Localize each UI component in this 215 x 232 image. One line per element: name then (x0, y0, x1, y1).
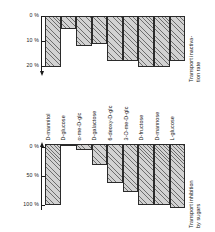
top-chart-y-axis: 0 %10 %20 % (41, 16, 42, 71)
top-chart-bar (123, 16, 139, 61)
category-label-column: 6-deoxy-D-glc (107, 86, 123, 140)
category-label-column: α-me-D-glc (76, 86, 92, 140)
category-label-column: L-glucose (170, 86, 186, 140)
top-chart-bar-column (61, 16, 77, 71)
category-label: D-mannose (154, 111, 159, 140)
figure-panel-pair: 0 %10 %20 % Transport inactiva- tion rat… (0, 0, 215, 232)
category-label-column: D-fructose (138, 86, 154, 140)
bottom-chart-plot-area (45, 144, 185, 210)
category-label: L-glucose (170, 116, 175, 140)
bottom-chart-axis-title: Transport inhibition by sugars (188, 148, 201, 228)
top-axis-arrow-icon (40, 71, 44, 76)
bottom-chart-bar (123, 144, 139, 192)
top-chart-bar-column (45, 16, 61, 71)
top-chart-bar (76, 16, 92, 46)
category-label: α-me-D-glc (76, 112, 81, 140)
bottom-chart-bar-column (107, 144, 123, 210)
bottom-chart-bar (92, 144, 108, 165)
top-chart-bar (61, 16, 77, 29)
category-label-column: D-mannose (154, 86, 170, 140)
top-chart-bar-column (138, 16, 154, 71)
category-label: D-galactose (92, 110, 97, 140)
top-chart-y-tick-label: 10 % (26, 38, 39, 43)
bottom-chart-bar (107, 144, 123, 183)
top-chart-axis-title: Transport inactiva- tion rate (188, 12, 201, 82)
bottom-chart-bar-column (61, 144, 77, 210)
top-chart-bar-column (170, 16, 186, 71)
category-label-column: D-mannitol (45, 86, 61, 140)
category-label-column: D-glucose (61, 86, 77, 140)
category-label: D-fructose (139, 114, 144, 140)
bottom-chart-bar-column (170, 144, 186, 210)
top-chart-bar-column (154, 16, 170, 71)
top-chart-bar-column (92, 16, 108, 71)
bottom-chart-bar-column (92, 144, 108, 210)
bottom-chart-bar (170, 144, 186, 208)
category-axis-labels: D-mannitolD-glucoseα-me-D-glcD-galactose… (45, 86, 185, 140)
top-chart-bar-column (76, 16, 92, 71)
top-chart-bar (107, 16, 123, 61)
bottom-chart-bar-column (123, 144, 139, 210)
bottom-chart-bar (45, 144, 61, 205)
top-chart-panel: 0 %10 %20 % Transport inactiva- tion rat… (0, 0, 215, 84)
bottom-chart-bar (76, 144, 92, 150)
top-chart-bar (154, 16, 170, 67)
bottom-chart-bar (61, 144, 77, 146)
top-chart-plot-area (45, 16, 185, 71)
bottom-chart-y-tick-label: 0 % (29, 144, 39, 149)
bottom-chart-bar-column (154, 144, 170, 210)
top-chart-bar-column (123, 16, 139, 71)
bottom-chart-bar (138, 144, 154, 205)
category-label: 6-deoxy-D-glc (108, 105, 113, 140)
category-label: 3-O-me-D-glc (123, 106, 128, 140)
top-chart-bar-column (107, 16, 123, 71)
top-chart-bar (92, 16, 108, 44)
category-label-column: D-galactose (92, 86, 108, 140)
category-label: D-mannitol (45, 113, 50, 140)
bottom-chart-y-tick-label: 50 % (26, 174, 39, 179)
bottom-chart-panel: 0 %50 %100 % Transport inhibition by sug… (0, 140, 215, 232)
bottom-chart-y-axis: 0 %50 %100 % (41, 147, 42, 210)
category-label-column: 3-O-me-D-glc (123, 86, 139, 140)
bottom-chart-bar (154, 144, 170, 205)
top-chart-bar (138, 16, 154, 67)
top-chart-y-tick-label: 0 % (29, 13, 39, 18)
category-label: D-glucose (61, 115, 66, 140)
bottom-chart-y-tick-label: 100 % (23, 203, 39, 208)
top-chart-bar (45, 16, 61, 67)
bottom-chart-bar-column (45, 144, 61, 210)
top-chart-y-tick-label: 20 % (26, 63, 39, 68)
bottom-chart-bar-column (138, 144, 154, 210)
bottom-chart-bar-column (76, 144, 92, 210)
top-chart-bar (170, 16, 186, 61)
